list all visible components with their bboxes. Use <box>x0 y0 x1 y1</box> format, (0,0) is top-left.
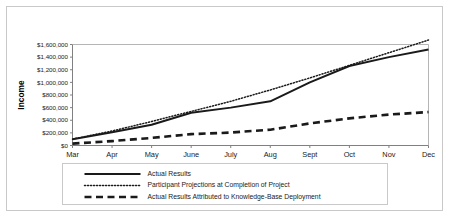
y-axis-tick-labels: $0$200,000$400,000$600,000$800,000$1,000… <box>37 41 69 149</box>
y-axis-title: Income <box>16 80 26 110</box>
y-axis-tick-label: $600,000 <box>42 104 68 111</box>
y-axis-tick-label: $400,000 <box>42 116 68 123</box>
x-axis-tick-labels: MarAprMayJuneJulyAugSeptOctNovDec <box>66 150 435 159</box>
y-axis-tick-label: $1,400,000 <box>37 53 69 60</box>
chart-figure: $0$200,000$400,000$600,000$800,000$1,000… <box>0 0 449 217</box>
x-axis-tick-label: July <box>224 150 237 159</box>
x-axis-tick-label: Mar <box>66 150 79 159</box>
y-axis-tick-label: $200,000 <box>42 129 68 136</box>
y-axis-tick-label: $1,200,000 <box>37 66 69 73</box>
legend-label-1: Actual Results <box>148 170 192 177</box>
x-axis-tick-label: Dec <box>422 150 435 159</box>
legend-label-3: Actual Results Attributed to Knowledge-B… <box>148 193 321 201</box>
x-axis-tick-label: Aug <box>264 150 277 159</box>
x-axis-tick-label: Sept <box>302 150 317 159</box>
y-axis-tick-label: $800,000 <box>42 91 68 98</box>
y-axis-tick-label: $1,600,000 <box>37 41 69 48</box>
y-axis-tick-label: $1,000,000 <box>37 79 69 86</box>
x-axis-tick-label: May <box>145 150 159 159</box>
x-axis-tick-label: Apr <box>106 150 118 159</box>
legend-label-2: Participant Projections at Completion of… <box>148 181 290 189</box>
x-axis-tick-label: June <box>183 150 199 159</box>
income-line-chart: $0$200,000$400,000$600,000$800,000$1,000… <box>0 0 449 217</box>
x-axis-tick-label: Oct <box>344 150 356 159</box>
x-axis-tick-label: Nov <box>382 150 395 159</box>
y-axis-tick-label: $0 <box>61 142 68 149</box>
